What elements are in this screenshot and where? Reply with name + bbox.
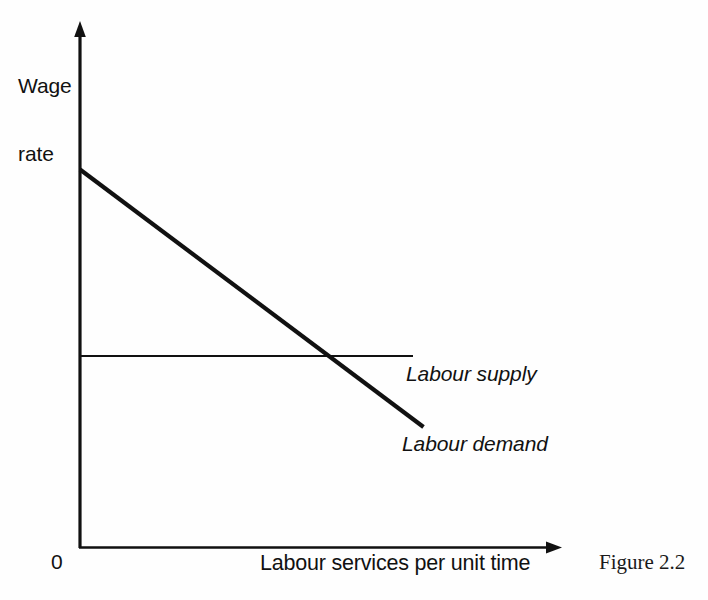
labour-supply-label: Labour supply [406, 363, 537, 386]
figure-container: Wage rate 0 Labour services per unit tim… [0, 0, 708, 600]
y-axis-title-line-1: Wage [18, 75, 72, 98]
y-axis-title: Wage rate [18, 30, 72, 211]
y-axis [74, 21, 86, 548]
labour-demand-label: Labour demand [402, 433, 548, 456]
figure-caption: Figure 2.2 [599, 551, 685, 574]
y-axis-title-line-2: rate [18, 143, 72, 166]
x-axis-title: Labour services per unit time [260, 552, 530, 575]
x-axis-arrowhead [546, 541, 562, 553]
y-axis-arrowhead [74, 21, 86, 37]
origin-label: 0 [51, 551, 63, 574]
labour-demand-line [80, 170, 424, 428]
labour-market-diagram [0, 0, 708, 600]
